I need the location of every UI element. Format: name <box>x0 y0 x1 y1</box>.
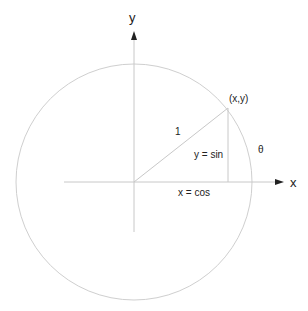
sin-label: y = sin <box>194 149 223 160</box>
unit-circle-diagram: y x (x,y) 1 y = sin x = cos θ <box>0 0 308 311</box>
radius-line <box>134 108 228 182</box>
cos-label: x = cos <box>178 187 210 198</box>
point-label: (x,y) <box>229 93 248 104</box>
angle-label: θ <box>258 144 264 155</box>
radius-label: 1 <box>175 126 181 137</box>
y-axis-arrow-icon <box>131 31 137 40</box>
y-axis-label: y <box>129 10 136 25</box>
x-axis-arrow-icon <box>275 179 284 185</box>
x-axis-label: x <box>290 175 297 190</box>
